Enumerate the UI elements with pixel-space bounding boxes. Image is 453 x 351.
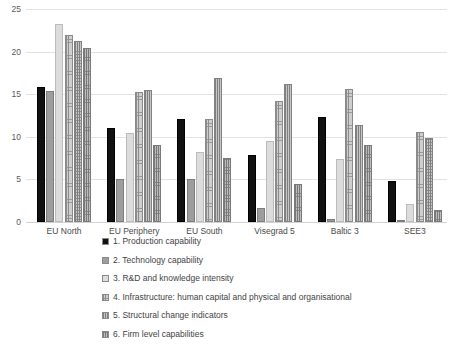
bar xyxy=(284,84,292,222)
bar xyxy=(144,90,152,222)
bar xyxy=(406,204,414,222)
legend-swatch-icon xyxy=(102,275,109,282)
legend-item[interactable]: 1. Production capability xyxy=(102,236,442,255)
bar xyxy=(214,78,222,222)
y-axis-tick-label: 10 xyxy=(12,133,21,142)
bar xyxy=(37,87,45,222)
legend-label: 6. Firm level capabilities xyxy=(113,329,204,340)
bar xyxy=(257,208,265,222)
bar xyxy=(266,141,274,222)
x-axis-tick-label: EU Periphery xyxy=(109,226,160,236)
bar xyxy=(318,117,326,222)
bar xyxy=(196,152,204,222)
bar xyxy=(205,119,213,222)
bar xyxy=(364,145,372,222)
bar-group xyxy=(107,9,161,222)
bar-group xyxy=(177,9,231,222)
x-axis-tick-label: SEE3 xyxy=(404,226,426,236)
bar xyxy=(177,119,185,222)
bar xyxy=(65,35,73,222)
legend-swatch-icon xyxy=(102,294,109,301)
y-axis-tick-label: 15 xyxy=(12,90,21,99)
bar xyxy=(345,89,353,222)
legend-swatch-icon xyxy=(102,312,109,319)
legend-item[interactable]: 6. Firm level capabilities xyxy=(102,329,442,348)
bar xyxy=(294,184,302,222)
bar xyxy=(74,41,82,222)
bar xyxy=(397,220,405,222)
bar xyxy=(83,48,91,222)
legend-label: 3. R&D and knowledge intensity xyxy=(113,273,234,284)
legend-item[interactable]: 4. Infrastructure: human capital and phy… xyxy=(102,292,442,311)
bar xyxy=(327,219,335,222)
bar xyxy=(153,145,161,222)
bar-chart: 0510152025 EU NorthEU PeripheryEU SouthV… xyxy=(0,0,453,351)
bar xyxy=(223,158,231,222)
y-axis: 0510152025 xyxy=(0,0,26,231)
legend-swatch-icon xyxy=(102,331,109,338)
legend-item[interactable]: 2. Technology capability xyxy=(102,255,442,274)
x-axis-tick-label: EU South xyxy=(186,226,222,236)
legend-label: 1. Production capability xyxy=(113,236,201,247)
bar xyxy=(187,179,195,222)
legend-item[interactable]: 5. Structural change indicators xyxy=(102,310,442,329)
legend-item[interactable]: 3. R&D and knowledge intensity xyxy=(102,273,442,292)
bar xyxy=(46,91,54,222)
y-axis-tick-label: 5 xyxy=(16,175,21,184)
y-axis-tick-label: 20 xyxy=(12,47,21,56)
bars-layer xyxy=(26,9,447,222)
bar xyxy=(355,125,363,222)
bar xyxy=(107,128,115,222)
axis-baseline xyxy=(26,222,447,223)
legend-label: 5. Structural change indicators xyxy=(113,310,228,321)
bar xyxy=(126,133,134,222)
bar-group xyxy=(248,9,302,222)
bar-group xyxy=(318,9,372,222)
y-axis-tick-label: 0 xyxy=(16,218,21,227)
legend-swatch-icon xyxy=(102,238,109,245)
x-axis-tick-label: Visegrad 5 xyxy=(254,226,294,236)
bar xyxy=(434,210,442,222)
x-axis-tick-label: EU North xyxy=(47,226,82,236)
bar xyxy=(116,179,124,222)
y-axis-tick-label: 25 xyxy=(12,5,21,14)
legend-swatch-icon xyxy=(102,257,109,264)
bar-group xyxy=(37,9,91,222)
bar xyxy=(388,181,396,222)
bar xyxy=(275,101,283,222)
legend-label: 2. Technology capability xyxy=(113,255,203,266)
bar xyxy=(416,132,424,222)
x-axis-tick-label: Baltic 3 xyxy=(331,226,359,236)
bar-group xyxy=(388,9,442,222)
bar xyxy=(336,159,344,222)
chart-legend: 1. Production capability2. Technology ca… xyxy=(102,236,442,347)
bar xyxy=(135,92,143,222)
legend-label: 4. Infrastructure: human capital and phy… xyxy=(113,292,352,303)
bar xyxy=(248,155,256,222)
bar xyxy=(425,138,433,222)
bar xyxy=(55,24,63,222)
